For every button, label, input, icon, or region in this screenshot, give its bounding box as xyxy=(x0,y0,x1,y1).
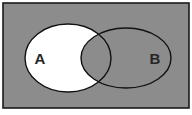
venn-diagram-figure: A B xyxy=(0,0,192,115)
set-b-label: B xyxy=(150,50,161,67)
shaded-region-a-minus-b xyxy=(0,0,192,115)
set-a-label: A xyxy=(35,50,46,67)
venn-diagram-canvas: A B xyxy=(0,0,192,115)
